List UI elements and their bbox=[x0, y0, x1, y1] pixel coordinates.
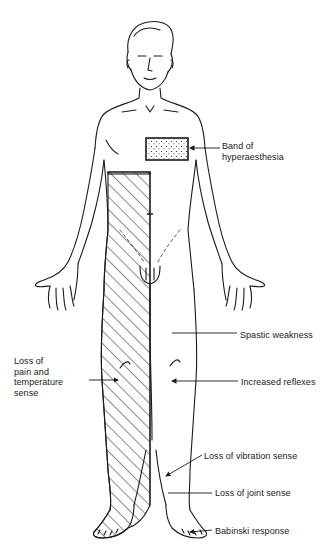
label-spastic-weakness: Spastic weakness bbox=[240, 330, 313, 341]
label-loss-of-joint-sense: Loss of joint sense bbox=[215, 488, 291, 499]
diagram-canvas: Band of hyperaesthesia Loss of pain and … bbox=[0, 0, 326, 552]
human-figure bbox=[0, 0, 326, 552]
label-increased-reflexes: Increased reflexes bbox=[241, 377, 315, 388]
pointer-vibration bbox=[166, 455, 202, 476]
hatched-region bbox=[93, 172, 150, 538]
head bbox=[127, 21, 173, 90]
stippled-band bbox=[146, 138, 188, 160]
label-loss-of-pain-temperature: Loss of pain and temperature sense bbox=[14, 356, 63, 398]
label-loss-of-vibration-sense: Loss of vibration sense bbox=[204, 451, 297, 462]
label-band-of-hyperaesthesia: Band of hyperaesthesia bbox=[222, 141, 284, 162]
label-babinski-response: Babinski response bbox=[215, 526, 289, 537]
